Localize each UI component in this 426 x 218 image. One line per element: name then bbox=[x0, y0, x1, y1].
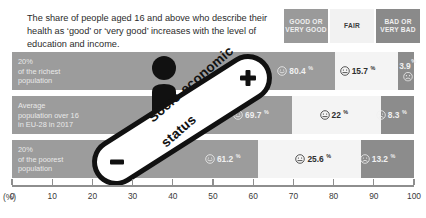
axis-tick bbox=[172, 179, 173, 185]
value-fair: 22 % bbox=[320, 110, 349, 120]
value-bad-number: 8.3 bbox=[388, 110, 400, 120]
value-good-number: 61.2 bbox=[217, 154, 233, 164]
row-label-line2: of the richest bbox=[18, 66, 96, 76]
smiley-neutral-icon bbox=[295, 154, 305, 164]
axis-tick-label: 40 bbox=[168, 191, 177, 201]
value-bad: 8.3 % bbox=[376, 110, 407, 120]
smiley-sad-icon bbox=[376, 110, 386, 120]
axis-tick-label: 90 bbox=[369, 191, 378, 201]
chart-plot-area: 20% of the richest population 80.4 % bbox=[12, 52, 414, 185]
legend-item-good: GOOD OR VERY GOOD bbox=[284, 9, 328, 43]
row-label-line3: population bbox=[18, 164, 96, 174]
table-row: Average population over 16 in EU-28 in 2… bbox=[12, 96, 414, 134]
axis-tick bbox=[52, 179, 53, 185]
axis-tick bbox=[212, 179, 213, 185]
value-good-number: 80.4 bbox=[289, 66, 305, 76]
table-row: 20% of the richest population 80.4 % bbox=[12, 52, 414, 90]
row-label-line1: 20% bbox=[18, 145, 96, 155]
percent-sign: % bbox=[411, 58, 416, 64]
legend-item-fair: FAIR bbox=[330, 9, 374, 43]
smiley-happy-icon bbox=[233, 110, 243, 120]
smiley-neutral-icon bbox=[320, 110, 330, 120]
value-good: 80.4 % bbox=[277, 66, 313, 76]
row-label-line3: population bbox=[18, 76, 96, 86]
axis-tick bbox=[92, 179, 93, 185]
x-axis bbox=[12, 185, 414, 187]
value-fair-number: 25.6 bbox=[307, 154, 323, 164]
row-label-line1: 20% bbox=[18, 57, 96, 67]
axis-tick bbox=[333, 179, 334, 185]
page-title: The share of people aged 16 and above wh… bbox=[27, 12, 285, 52]
table-row: 20% of the poorest population 61.2 % bbox=[12, 140, 414, 178]
axis-tick-label: 50 bbox=[208, 191, 217, 201]
row-label-line2: of the poorest bbox=[18, 154, 96, 164]
row-label-line1: Average bbox=[18, 101, 96, 111]
axis-tick bbox=[253, 179, 254, 185]
row-label-line2: population over 16 bbox=[18, 110, 96, 120]
axis-tick-label: 30 bbox=[128, 191, 137, 201]
percent-sign: % bbox=[370, 65, 375, 71]
axis-tick bbox=[413, 179, 414, 185]
axis-tick bbox=[293, 179, 294, 185]
smiley-sad-icon bbox=[403, 71, 413, 81]
value-fair-number: 22 bbox=[332, 110, 341, 120]
axis-tick bbox=[132, 179, 133, 185]
smiley-happy-icon bbox=[205, 154, 215, 164]
value-fair: 15.7 % bbox=[340, 66, 376, 76]
legend: GOOD OR VERY GOOD FAIR BAD OR VERY BAD bbox=[284, 9, 420, 43]
infographic-root: The share of people aged 16 and above wh… bbox=[0, 0, 426, 218]
percent-sign: % bbox=[343, 109, 348, 115]
percent-sign: % bbox=[264, 109, 269, 115]
row-label-line3: in EU-28 in 2017 bbox=[18, 120, 96, 130]
value-bad-number: 3.9 bbox=[399, 61, 411, 71]
value-bad-number: 13.2 bbox=[372, 154, 388, 164]
axis-tick-label: 70 bbox=[289, 191, 298, 201]
value-bad-wrap: 3.9% bbox=[399, 61, 416, 72]
axis-tick-label: 0 bbox=[10, 191, 15, 201]
smiley-sad-icon bbox=[360, 154, 370, 164]
axis-tick-label: 80 bbox=[329, 191, 338, 201]
value-good: 61.2 % bbox=[205, 154, 241, 164]
smiley-happy-icon bbox=[277, 66, 287, 76]
axis-tick bbox=[11, 179, 12, 185]
row-label: 20% of the poorest population bbox=[18, 145, 96, 174]
percent-sign: % bbox=[236, 153, 241, 159]
percent-sign: % bbox=[326, 153, 331, 159]
axis-tick-label: 10 bbox=[48, 191, 57, 201]
axis-tick-label: 100 bbox=[407, 191, 421, 201]
percent-sign: % bbox=[308, 65, 313, 71]
value-good: 69.7 % bbox=[233, 110, 269, 120]
axis-tick-label: 60 bbox=[249, 191, 258, 201]
legend-item-bad: BAD OR VERY BAD bbox=[376, 9, 420, 43]
axis-tick-label: 20 bbox=[88, 191, 97, 201]
percent-sign: % bbox=[402, 109, 407, 115]
value-good-number: 69.7 bbox=[245, 110, 261, 120]
value-fair-number: 15.7 bbox=[352, 66, 368, 76]
percent-sign: % bbox=[391, 153, 396, 159]
value-fair: 25.6 % bbox=[295, 154, 331, 164]
row-label: 20% of the richest population bbox=[18, 57, 96, 86]
smiley-neutral-icon bbox=[340, 66, 350, 76]
row-label: Average population over 16 in EU-28 in 2… bbox=[18, 101, 96, 130]
value-bad: 3.9% bbox=[399, 61, 416, 82]
value-bad: 13.2 % bbox=[360, 154, 396, 164]
axis-tick bbox=[373, 179, 374, 185]
